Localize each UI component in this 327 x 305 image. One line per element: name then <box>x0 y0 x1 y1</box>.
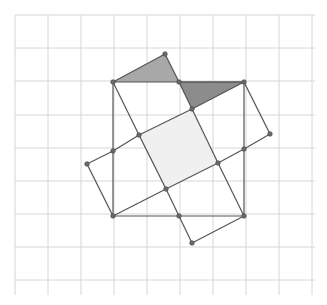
segment-A-Q1 <box>113 82 139 135</box>
segment-L1-S <box>87 151 113 164</box>
segment-R1-Q2 <box>218 149 244 163</box>
shaded-triangle-right <box>179 82 244 109</box>
point-U <box>190 241 195 246</box>
geometry-diagram <box>0 0 327 305</box>
point-Q3 <box>164 187 169 192</box>
point-R <box>268 132 273 137</box>
segment-B-R <box>244 82 270 134</box>
point-N <box>177 214 182 219</box>
point-M <box>177 80 182 85</box>
point-A <box>111 80 116 85</box>
segment-N-U <box>179 216 192 243</box>
point-R1 <box>242 147 247 152</box>
point-P1 <box>190 107 195 112</box>
point-L1 <box>111 149 116 154</box>
segment-Q3-D <box>113 189 166 216</box>
segment-Q3-N <box>166 189 179 216</box>
segment-S-D <box>87 164 113 216</box>
point-B <box>242 80 247 85</box>
inner-square <box>139 109 218 189</box>
segment-Q2-C <box>218 163 244 216</box>
segment-Q1-L1 <box>113 135 139 151</box>
point-S <box>85 162 90 167</box>
point-T <box>163 52 168 57</box>
shaded-triangle-left <box>113 54 179 82</box>
point-Q1 <box>137 133 142 138</box>
point-Q2 <box>216 161 221 166</box>
segment-U-C <box>192 216 244 243</box>
segment-R-R1 <box>244 134 270 149</box>
point-D <box>111 214 116 219</box>
point-C <box>242 214 247 219</box>
